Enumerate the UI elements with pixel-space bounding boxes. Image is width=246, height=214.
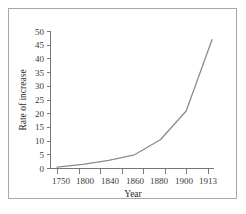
y-tick-label: 45 [35,40,45,50]
data-series-line [57,40,212,167]
x-tick-label: 1860 [126,176,145,186]
y-tick-label: 10 [35,136,45,146]
y-tick-label: 35 [35,68,45,78]
chart-svg: 0 5 10 15 20 25 30 35 40 45 50 1750 1800 [0,0,246,214]
x-tick-label: 1900 [175,176,194,186]
y-tick-label: 15 [35,122,45,132]
y-tick-label: 30 [35,81,45,91]
y-tick-label: 20 [35,109,45,119]
y-axis-tick-labels: 0 5 10 15 20 25 30 35 40 45 50 [35,27,45,174]
y-tick-label: 0 [40,164,45,174]
y-tick-label: 5 [40,150,45,160]
x-tick-label: 1913 [199,176,218,186]
y-tick-label: 40 [35,54,45,64]
x-axis-tick-labels: 1750 1800 1840 1860 1880 1900 1913 [52,176,218,186]
line-chart: 0 5 10 15 20 25 30 35 40 45 50 1750 1800 [0,0,246,214]
x-tick-label: 1880 [150,176,169,186]
y-axis-ticks [47,32,51,169]
x-axis-ticks [58,169,209,174]
x-tick-label: 1800 [76,176,95,186]
y-tick-label: 25 [35,95,45,105]
y-tick-label: 50 [35,27,45,37]
x-tick-label: 1750 [52,176,71,186]
y-axis-title: Rate of increase [18,69,28,130]
x-tick-label: 1840 [101,176,120,186]
x-axis-title: Year [124,189,142,199]
